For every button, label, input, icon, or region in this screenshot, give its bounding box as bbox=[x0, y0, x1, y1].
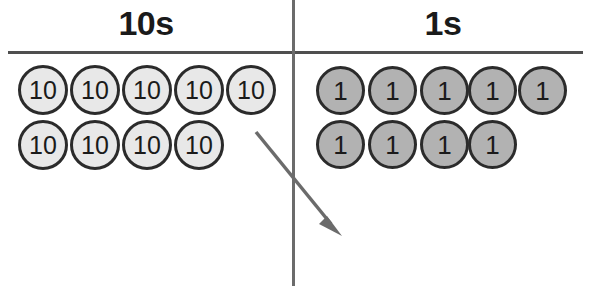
disc-ten[interactable]: 10 bbox=[70, 120, 120, 170]
disc-ten[interactable]: 10 bbox=[18, 65, 68, 115]
arrow-head bbox=[319, 216, 342, 236]
disc-one[interactable]: 1 bbox=[368, 66, 417, 115]
disc-one[interactable]: 1 bbox=[420, 66, 469, 115]
column-heading-ones: 1s bbox=[295, 4, 591, 43]
disc-ten[interactable]: 10 bbox=[174, 120, 224, 170]
disc-one[interactable]: 1 bbox=[468, 66, 517, 115]
disc-ten[interactable]: 10 bbox=[122, 65, 172, 115]
disc-one[interactable]: 1 bbox=[316, 66, 365, 115]
disc-ten[interactable]: 10 bbox=[174, 65, 224, 115]
disc-ten[interactable]: 10 bbox=[18, 120, 68, 170]
disc-one[interactable]: 1 bbox=[420, 120, 469, 169]
place-value-chart: 10s 1s 10 10 10 10 10 10 10 10 10 1 1 1 … bbox=[0, 0, 591, 295]
disc-one[interactable]: 1 bbox=[468, 120, 517, 169]
disc-one[interactable]: 1 bbox=[368, 120, 417, 169]
disc-ten[interactable]: 10 bbox=[70, 65, 120, 115]
disc-one[interactable]: 1 bbox=[316, 120, 365, 169]
header-horizontal-rule bbox=[8, 51, 583, 54]
column-divider-line bbox=[292, 0, 295, 286]
disc-ten[interactable]: 10 bbox=[122, 120, 172, 170]
column-heading-tens: 10s bbox=[0, 4, 292, 43]
disc-ten[interactable]: 10 bbox=[226, 65, 276, 115]
disc-one[interactable]: 1 bbox=[518, 66, 567, 115]
